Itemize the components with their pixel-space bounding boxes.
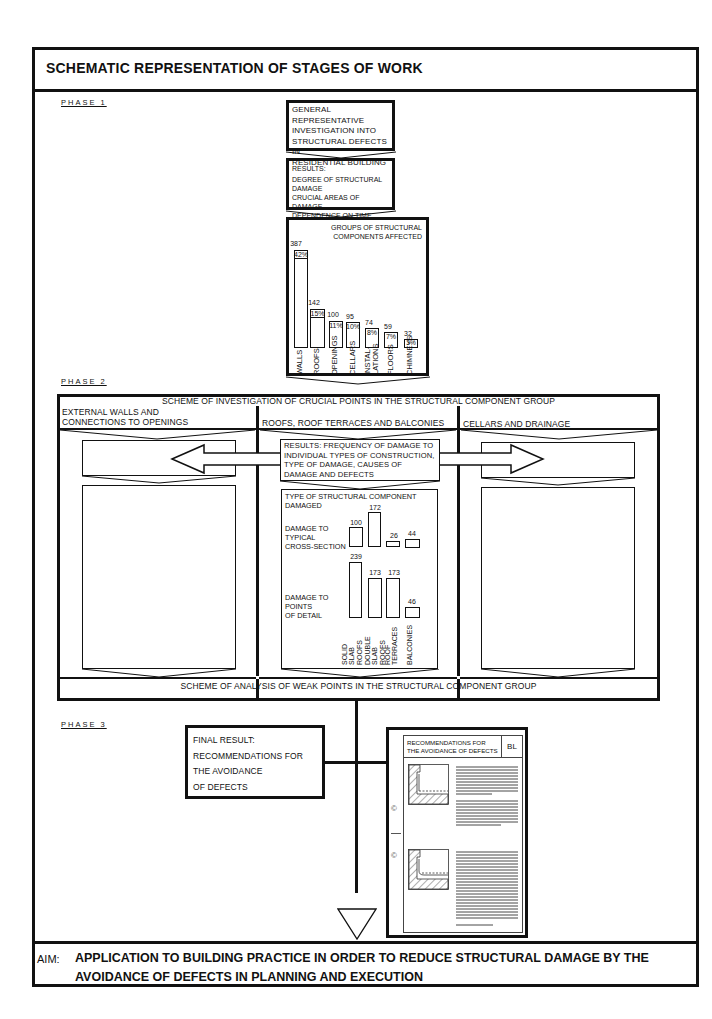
results-box: RESULTS: DEGREE OF STRUCTURAL DAMAGE CRU…: [286, 158, 395, 210]
margin-tick: [391, 833, 401, 834]
bar-value: 100: [341, 519, 371, 526]
bar-solid-slab-cross: [349, 527, 363, 547]
aim-label: AIM:: [37, 950, 60, 969]
row-label-cross-section: DAMAGE TO TYPICAL CROSS-SECTION: [285, 524, 346, 551]
bar-percent: 42%: [294, 251, 308, 259]
document-code: BL: [501, 736, 522, 758]
category-label: FLOORS: [387, 350, 395, 375]
bar-balconies-cross: [405, 539, 420, 548]
phase-1-label: PHASE 1: [61, 98, 107, 107]
category-label: WALLS: [296, 353, 304, 375]
category-label: CHIMNEYS: [406, 348, 414, 375]
bar-value: 239: [341, 553, 371, 560]
walls-chart-box: [82, 485, 236, 669]
recommendations-document: RECOMMENDATIONS FOR THE AVOIDANCE OF DEF…: [386, 727, 528, 938]
bar-value: 59: [373, 323, 403, 330]
title-bar: SCHEMATIC REPRESENTATION OF STAGES OF WO…: [32, 47, 699, 92]
chevron-connector-icon: [461, 430, 657, 440]
bar-value: 173: [379, 569, 409, 576]
frequency-results-box: RESULTS: FREQUENCY OF DAMAGE TO INDIVIDU…: [280, 439, 440, 481]
down-arrow-icon: [337, 908, 377, 941]
margin-marker-icon: ©: [391, 851, 397, 860]
flow-line: [355, 701, 358, 893]
category-label: INSTAL- LATIONS: [364, 350, 380, 375]
category-label: SOLID SLAB ROOFS: [341, 623, 363, 665]
chevron-connector-icon: [82, 476, 236, 484]
phase-3-label: PHASE 3: [61, 720, 107, 729]
column-divider: [457, 676, 460, 679]
category-label: ROOF TERRACES: [384, 623, 399, 665]
document-title: RECOMMENDATIONS FOR THE AVOIDANCE OF DEF…: [407, 739, 498, 755]
bar-double-slab-cross: [368, 512, 381, 547]
category-label: OPENINGS: [331, 350, 339, 375]
bar-value: 387: [281, 240, 311, 247]
column-divider: [256, 676, 259, 679]
section-drawing-icon: [408, 764, 450, 806]
category-label: DOUBLE SLAB ROOFS: [364, 623, 386, 665]
text-lines-icon: [456, 851, 520, 931]
components-chart: GROUPS OF STRUCTURAL COMPONENTS AFFECTED…: [286, 217, 429, 376]
connector-line: [325, 761, 387, 764]
analysis-rule: [57, 677, 660, 679]
category-label: ROOFS: [313, 353, 321, 375]
phase-2-label: PHASE 2: [61, 377, 107, 386]
bar-balconies-detail: [405, 607, 420, 618]
page-title: SCHEMATIC REPRESENTATION OF STAGES OF WO…: [46, 60, 423, 76]
bar-value: 46: [397, 598, 427, 605]
aim-text: APPLICATION TO BUILDING PRACTICE IN ORDE…: [75, 949, 695, 987]
column-header-walls: EXTERNAL WALLS AND CONNECTIONS TO OPENIN…: [62, 407, 252, 427]
chevron-connector-icon: [60, 430, 255, 440]
category-label: CELLARS: [349, 350, 357, 375]
category-label: BALCONIES: [406, 623, 413, 665]
section-drawing-icon: [408, 849, 450, 891]
investigation-box: GENERAL REPRESENTATIVE INVESTIGATION INT…: [286, 100, 395, 151]
bar-double-slab-detail: [368, 578, 382, 618]
bar-value: 172: [360, 504, 390, 511]
bar-roof-terraces-cross: [386, 541, 400, 547]
bar-percent: 11%: [329, 322, 343, 329]
chart-title: GROUPS OF STRUCTURAL COMPONENTS AFFECTED: [331, 223, 422, 241]
bar-percent: 8%: [365, 329, 379, 336]
document-header: RECOMMENDATIONS FOR THE AVOIDANCE OF DEF…: [404, 736, 522, 758]
bar-value: 142: [299, 299, 329, 306]
results-heading: RESULTS:: [292, 164, 389, 173]
final-result-box: FINAL RESULT: RECOMMENDATIONS FOR THE AV…: [185, 725, 325, 799]
margin-marker-icon: ©: [391, 804, 397, 813]
chart-title: TYPE OF STRUCTURAL COMPONENT DAMAGED: [285, 492, 417, 510]
row-label-points-detail: DAMAGE TO POINTS OF DETAIL: [285, 593, 329, 620]
damage-type-chart: TYPE OF STRUCTURAL COMPONENT DAMAGED DAM…: [281, 489, 438, 669]
cellars-chart-box: [481, 487, 635, 669]
chevron-connector-icon: [481, 478, 635, 486]
analysis-title: SCHEME OF ANALYSIS OF WEAK POINTS IN THE…: [57, 681, 660, 692]
aim-bar: AIM: APPLICATION TO BUILDING PRACTICE IN…: [32, 941, 699, 987]
bar-value: 44: [397, 530, 427, 537]
chevron-connector-icon: [286, 376, 430, 385]
document-page: RECOMMENDATIONS FOR THE AVOIDANCE OF DEF…: [403, 735, 523, 933]
scheme-title: SCHEME OF INVESTIGATION OF CRUCIAL POINT…: [57, 396, 660, 407]
